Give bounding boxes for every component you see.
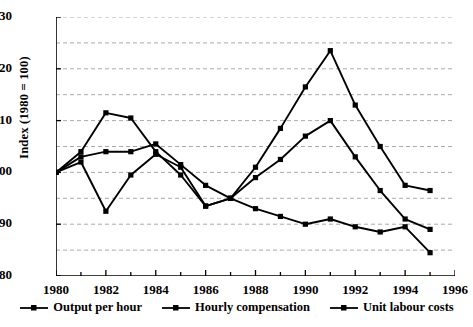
data-point — [353, 154, 358, 159]
data-point — [278, 126, 283, 131]
data-point — [56, 170, 59, 175]
data-point — [103, 110, 108, 115]
data-point — [278, 157, 283, 162]
data-point — [103, 209, 108, 214]
legend-marker-icon — [161, 302, 191, 314]
data-point — [253, 206, 258, 211]
data-point — [153, 152, 158, 157]
data-point — [378, 188, 383, 193]
y-tick-label: 120 — [0, 60, 12, 76]
data-point — [78, 149, 83, 154]
data-point — [78, 154, 83, 159]
data-point — [378, 229, 383, 234]
data-point — [278, 214, 283, 219]
data-point — [178, 172, 183, 177]
legend-item[interactable]: Hourly compensation — [161, 300, 310, 315]
data-point — [303, 84, 308, 89]
data-point — [403, 216, 408, 221]
data-point — [103, 149, 108, 154]
chart-legend: Output per hourHourly compensationUnit l… — [0, 300, 473, 315]
data-point — [128, 149, 133, 154]
data-point — [253, 175, 258, 180]
chart-container: Index (1980 = 100) 8090100110120130 1980… — [0, 0, 473, 327]
legend-marker-icon — [19, 302, 49, 314]
plot-area — [56, 17, 455, 276]
data-point — [203, 183, 208, 188]
legend-label: Output per hour — [53, 300, 142, 315]
data-point — [303, 222, 308, 227]
data-point — [303, 134, 308, 139]
chart-svg — [56, 17, 455, 276]
series-3 — [56, 152, 433, 256]
data-point — [403, 183, 408, 188]
data-point — [228, 196, 233, 201]
data-point — [328, 48, 333, 53]
data-point — [427, 227, 432, 232]
data-point — [353, 224, 358, 229]
y-tick-label: 100 — [0, 163, 12, 179]
data-point — [153, 141, 158, 146]
y-tick-label: 110 — [0, 112, 12, 128]
legend-item[interactable]: Output per hour — [19, 300, 142, 315]
y-tick-label: 90 — [0, 215, 12, 231]
y-tick-label: 130 — [0, 8, 12, 24]
data-point — [427, 188, 432, 193]
legend-label: Unit labour costs — [363, 300, 454, 315]
data-point — [253, 165, 258, 170]
series-1 — [56, 118, 433, 232]
data-point — [427, 250, 432, 255]
data-point — [178, 165, 183, 170]
series-line — [56, 154, 430, 252]
data-point — [403, 224, 408, 229]
y-axis-title: Index (1980 = 100) — [17, 28, 32, 188]
data-point — [378, 144, 383, 149]
data-point — [203, 203, 208, 208]
legend-marker-icon — [329, 302, 359, 314]
legend-label: Hourly compensation — [195, 300, 310, 315]
data-point — [328, 118, 333, 123]
data-point — [128, 115, 133, 120]
data-point — [128, 172, 133, 177]
legend-item[interactable]: Unit labour costs — [329, 300, 454, 315]
data-point — [78, 159, 83, 164]
data-point — [328, 216, 333, 221]
y-tick-label: 80 — [0, 267, 12, 283]
x-tick-label: 1996 — [425, 282, 473, 298]
data-point — [353, 102, 358, 107]
